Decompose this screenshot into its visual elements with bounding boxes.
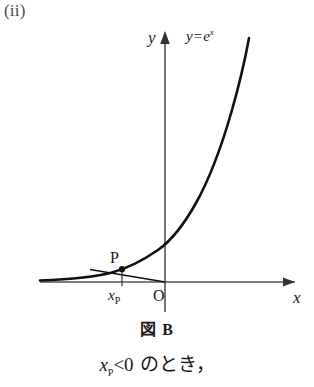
condition-variable: x	[99, 354, 107, 375]
origin-label: O	[153, 288, 165, 304]
x-axis-arrowhead	[283, 278, 295, 287]
figure-container: (ii) y x y=ex P xP O 図 B xP<0のとき，	[0, 0, 314, 387]
x-axis-label: x	[293, 289, 301, 306]
condition-relation: <0	[113, 354, 133, 375]
condition-japanese-text: のとき，	[140, 354, 215, 375]
curve-label-exponent: x	[210, 27, 214, 37]
xp-tick-label: xP	[108, 288, 120, 303]
xp-tick-variable: x	[108, 287, 115, 303]
y-axis	[160, 31, 170, 312]
curve-label-lhs: y	[186, 28, 193, 44]
curve-label-equals: =	[194, 28, 202, 44]
exponential-curve	[40, 38, 249, 281]
figure-caption: 図 B	[0, 322, 314, 338]
point-p-marker	[119, 266, 125, 272]
y-axis-arrowhead	[160, 31, 170, 44]
curve-label-base: e	[203, 28, 210, 44]
curve-equation-label: y=ex	[186, 29, 214, 44]
condition-caption: xP<0のとき，	[0, 355, 314, 374]
xp-tick-subscript: P	[115, 295, 121, 306]
point-p-label: P	[110, 250, 119, 266]
exponential-curve-plot	[0, 0, 314, 320]
y-axis-label: y	[148, 29, 156, 46]
